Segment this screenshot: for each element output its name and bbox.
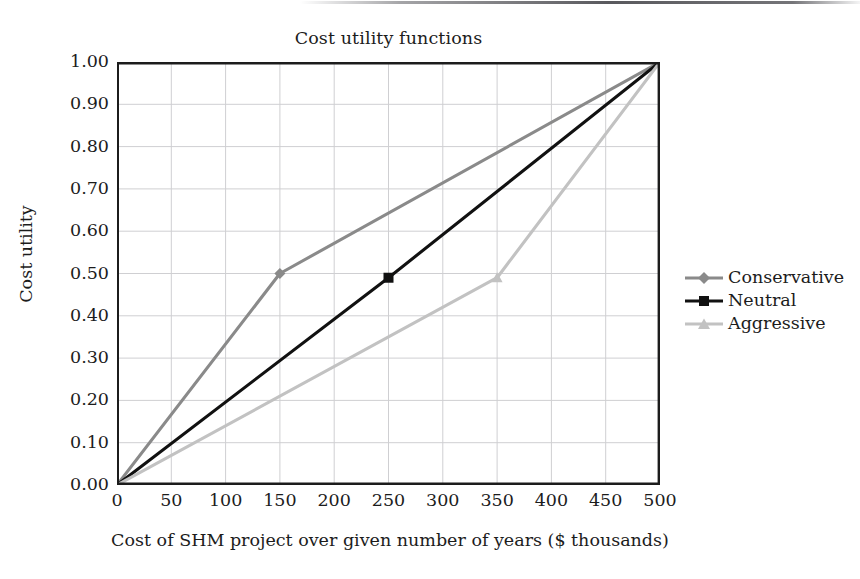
legend-label: Conservative [724,269,844,287]
legend-entry-aggressive[interactable]: Aggressive [684,312,856,335]
y-axis-tick-labels: 0.000.100.200.300.400.500.600.700.800.90… [43,62,109,485]
legend-entry-conservative[interactable]: Conservative [684,266,856,289]
plot-svg [117,62,660,485]
x-axis-tick-labels: 050100150200250300350400450500 [117,492,660,518]
x-tick-label: 500 [625,492,695,510]
y-tick-label: 0.60 [49,222,109,240]
x-axis-title: Cost of SHM project over given number of… [60,530,720,550]
y-tick-label: 0.70 [49,180,109,198]
legend-label: Aggressive [724,315,826,333]
y-axis-title: Cost utility [16,184,36,324]
legend-marker-aggressive-icon [684,315,724,333]
legend-point [699,296,709,306]
y-tick-label: 0.10 [49,434,109,452]
y-tick-label: 0.90 [49,96,109,114]
chart-legend: ConservativeNeutralAggressive [684,266,856,335]
y-tick-label: 0.30 [49,349,109,367]
y-tick-label: 0.50 [49,265,109,283]
legend-label: Neutral [724,292,796,310]
y-tick-label: 0.40 [49,307,109,325]
legend-point [698,272,710,284]
legend-marker-neutral-icon [684,292,724,310]
series-marker-neutral [384,273,394,283]
legend-entry-neutral[interactable]: Neutral [684,289,856,312]
y-tick-label: 0.20 [49,392,109,410]
chart-figure: Cost utility functions Cost utility 0.00… [0,0,860,579]
chart-title: Cost utility functions [117,28,660,48]
plot-area [117,62,660,485]
y-tick-label: 1.00 [49,53,109,71]
legend-marker-conservative-icon [684,269,724,287]
y-tick-label: 0.80 [49,138,109,156]
scan-artifact-line [300,1,860,4]
